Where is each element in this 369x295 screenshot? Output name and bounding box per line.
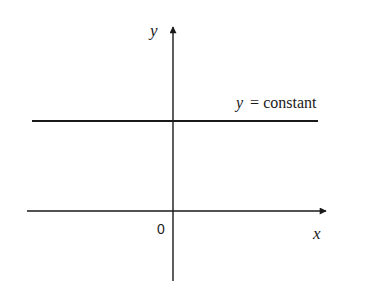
line-label-var: y: [234, 94, 244, 112]
x-axis-label: x: [312, 224, 321, 243]
line-label-eq: = constant: [250, 94, 317, 111]
y-axis-label: y: [148, 21, 158, 40]
origin-label: 0: [157, 221, 165, 237]
line-label: y = constant: [234, 94, 317, 112]
graph-canvas: y x 0 y = constant: [0, 0, 369, 295]
